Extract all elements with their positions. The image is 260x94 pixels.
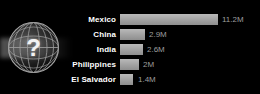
horizontal-bar-chart: Mexico 11.2M China 2.9M India 2.6M Phili… (0, 8, 260, 92)
bar-value-label: 1.4M (138, 74, 156, 85)
table-row: India 2.6M (0, 44, 260, 55)
bar-fill (120, 44, 143, 55)
bar-value-label: 2M (143, 59, 154, 70)
bar-category-label: Mexico (0, 14, 116, 25)
bar-category-label: China (0, 29, 116, 40)
bar-track (120, 44, 143, 55)
bar-fill (120, 29, 145, 40)
table-row: El Salvador 1.4M (0, 74, 260, 85)
bar-fill (120, 59, 139, 70)
table-row: China 2.9M (0, 29, 260, 40)
table-row: Mexico 11.2M (0, 14, 260, 25)
bar-value-label: 2.9M (149, 29, 167, 40)
table-row: Philippines 2M (0, 59, 260, 70)
bar-category-label: India (0, 44, 116, 55)
bar-track (120, 74, 133, 85)
infographic-container: ? Mexico 11.2M China 2.9M India 2.6M Phi (0, 0, 260, 94)
bar-category-label: El Salvador (0, 74, 116, 85)
bar-value-label: 11.2M (222, 14, 244, 25)
bar-track (120, 14, 218, 25)
bar-track (120, 29, 145, 40)
bar-fill (120, 74, 133, 85)
bar-value-label: 2.6M (147, 44, 165, 55)
bar-category-label: Philippines (0, 59, 116, 70)
bar-fill (120, 14, 218, 25)
bar-track (120, 59, 139, 70)
